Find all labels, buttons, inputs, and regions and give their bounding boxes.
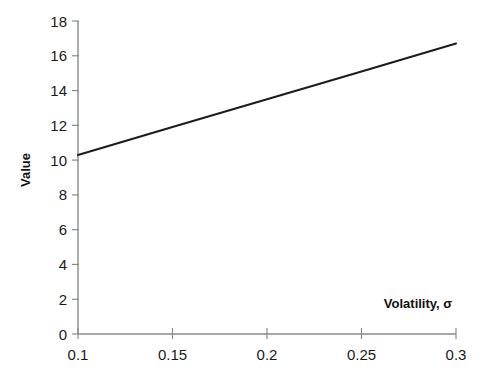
x-tick-label: 0.3 [446,346,467,363]
x-tick-label: 0.25 [347,346,376,363]
y-tick-label: 12 [50,117,67,134]
chart-container: 024681012141618 Value 0.10.150.20.250.3 … [0,0,482,382]
y-tick-label: 8 [59,186,67,203]
y-tick-label: 16 [50,47,67,64]
y-tick-label: 18 [50,13,67,30]
x-tick-label: 0.1 [68,346,89,363]
x-axis-title: Volatility, σ [384,296,452,311]
y-tick-label: 0 [59,326,67,343]
y-axis-title: Value [18,153,33,187]
y-tick-label: 2 [59,291,67,308]
x-tick-label: 0.2 [257,346,278,363]
line-chart: 024681012141618 Value 0.10.150.20.250.3 … [0,0,482,382]
y-tick-label: 4 [59,256,67,273]
y-tick-label: 6 [59,221,67,238]
x-tick-label: 0.15 [158,346,187,363]
y-tick-label: 14 [50,82,67,99]
y-tick-label: 10 [50,152,67,169]
